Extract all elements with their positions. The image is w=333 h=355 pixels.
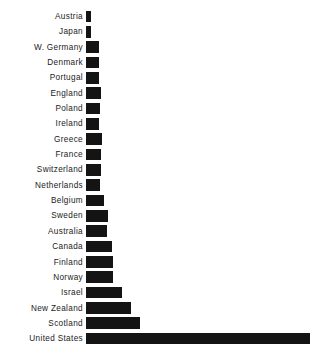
bar-value (86, 333, 310, 345)
bar-value (86, 103, 100, 115)
bar-category-label: Greece (54, 132, 83, 147)
bar-category-label: Japan (59, 24, 83, 39)
bar-value (86, 149, 101, 161)
bar-category-label: Israel (61, 285, 83, 300)
bar-row: Israel (0, 285, 333, 300)
bar-value (86, 241, 112, 253)
bar-value (86, 118, 99, 130)
bar-chart: AustriaJapanW. GermanyDenmarkPortugalEng… (0, 0, 333, 355)
bar-value (86, 256, 113, 268)
bar-value (86, 26, 91, 38)
bar-category-label: Australia (48, 224, 83, 239)
bar-value (86, 87, 101, 99)
bar-category-label: Sweden (51, 208, 83, 223)
bar-category-label: New Zealand (31, 301, 83, 316)
bar-value (86, 287, 122, 299)
bar-category-label: W. Germany (34, 40, 83, 55)
bar-value (86, 164, 101, 176)
bar-value (86, 72, 99, 84)
bar-category-label: Norway (53, 270, 83, 285)
bar-row: Austria (0, 9, 333, 24)
bar-row: Portugal (0, 70, 333, 85)
bar-category-label: Scotland (48, 316, 83, 331)
bar-value (86, 271, 113, 283)
bar-row: Finland (0, 255, 333, 270)
bar-row: Belgium (0, 193, 333, 208)
bar-row: United States (0, 331, 333, 346)
bar-row: Scotland (0, 316, 333, 331)
bar-row: Denmark (0, 55, 333, 70)
bar-category-label: France (55, 147, 83, 162)
bar-category-label: Portugal (50, 70, 83, 85)
bar-value (86, 302, 131, 314)
bar-category-label: Canada (52, 239, 83, 254)
bar-row: Poland (0, 101, 333, 116)
bar-row: W. Germany (0, 40, 333, 55)
bar-row: Canada (0, 239, 333, 254)
footer-caption (0, 347, 333, 355)
bar-value (86, 195, 104, 207)
bar-value (86, 210, 108, 222)
bar-value (86, 225, 107, 237)
bar-row: Netherlands (0, 178, 333, 193)
bar-value (86, 11, 91, 23)
bar-row: Ireland (0, 116, 333, 131)
bar-row: Greece (0, 132, 333, 147)
bar-category-label: Austria (55, 9, 83, 24)
bar-value (86, 133, 102, 145)
bar-row: Sweden (0, 208, 333, 223)
bar-category-label: Denmark (47, 55, 83, 70)
bar-row: England (0, 86, 333, 101)
bar-category-label: Poland (55, 101, 83, 116)
bar-value (86, 41, 99, 53)
bar-category-label: Switzerland (37, 162, 83, 177)
bar-row: New Zealand (0, 301, 333, 316)
bar-value (86, 57, 99, 69)
bar-row: Australia (0, 224, 333, 239)
bar-row: France (0, 147, 333, 162)
bar-value (86, 317, 140, 329)
bar-row: Norway (0, 270, 333, 285)
bar-category-label: England (51, 86, 84, 101)
plot-area: AustriaJapanW. GermanyDenmarkPortugalEng… (0, 9, 333, 349)
bar-category-label: United States (29, 331, 83, 346)
bar-row: Switzerland (0, 162, 333, 177)
bar-category-label: Netherlands (35, 178, 83, 193)
bar-value (86, 179, 100, 191)
bar-category-label: Ireland (56, 116, 83, 131)
bar-category-label: Finland (54, 255, 83, 270)
bar-category-label: Belgium (51, 193, 83, 208)
bar-row: Japan (0, 24, 333, 39)
